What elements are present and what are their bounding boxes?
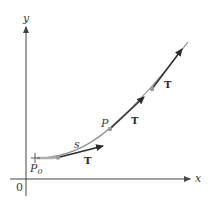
tangent-label-2: T — [131, 115, 139, 126]
point-on-curve-3 — [150, 87, 154, 91]
arc-length-label: s — [74, 138, 80, 151]
labels: P0 s P T T T — [29, 79, 172, 176]
arc-length-highlight — [37, 158, 58, 159]
tangent-label-1: T — [84, 155, 92, 166]
p0-label: P0 — [29, 162, 43, 176]
p-label: P — [100, 117, 109, 130]
point-p — [108, 127, 112, 131]
curve — [37, 42, 188, 158]
tangent-label-3: T — [164, 79, 172, 90]
y-axis-label: y — [22, 12, 30, 25]
point-on-curve-1 — [56, 155, 60, 159]
x-axis-label: x — [195, 172, 202, 185]
tangent-vector-2 — [110, 97, 144, 129]
tangent-vector-diagram: x y 0 P0 s P T T T — [0, 0, 210, 203]
origin-label: 0 — [16, 181, 23, 194]
